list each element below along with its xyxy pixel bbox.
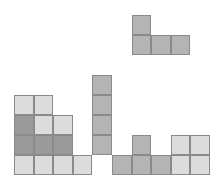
stacked-block [92, 95, 112, 115]
stacked-block [53, 115, 73, 135]
falling-piece-block [132, 35, 152, 55]
stacked-block [92, 135, 112, 155]
stacked-block [34, 115, 54, 135]
stacked-block [190, 135, 210, 155]
stacked-block [92, 115, 112, 135]
stacked-block [112, 155, 132, 175]
stacked-block [14, 155, 34, 175]
stacked-block [53, 155, 73, 175]
stacked-block [14, 95, 34, 115]
falling-piece-block [132, 15, 152, 35]
stacked-block [171, 135, 191, 155]
stacked-block [34, 155, 54, 175]
stacked-block [34, 135, 54, 155]
stacked-block [171, 155, 191, 175]
stacked-block [151, 155, 171, 175]
stacked-block [73, 155, 93, 175]
stacked-block [34, 95, 54, 115]
stacked-block [14, 135, 34, 155]
game-board [0, 0, 221, 188]
stacked-block [14, 115, 34, 135]
falling-piece-block [151, 35, 171, 55]
stacked-block [132, 135, 152, 155]
stacked-block [190, 155, 210, 175]
falling-piece-block [171, 35, 191, 55]
stacked-block [92, 75, 112, 95]
stacked-block [132, 155, 152, 175]
stacked-block [53, 135, 73, 155]
